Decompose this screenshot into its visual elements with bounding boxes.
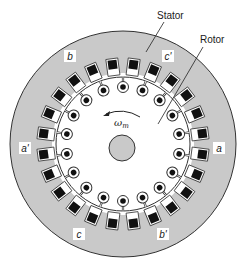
svg-text:c: c xyxy=(77,229,82,240)
phase-label-c: c xyxy=(73,228,85,240)
stator-slot xyxy=(126,58,140,76)
svg-text:b: b xyxy=(67,51,73,62)
svg-text:a': a' xyxy=(21,143,30,154)
stator-slot xyxy=(191,147,209,161)
stator-slot xyxy=(106,212,120,230)
stator-label: Stator xyxy=(157,10,184,21)
phase-label-a: a xyxy=(213,142,225,154)
svg-text:b': b' xyxy=(159,229,168,240)
phase-label-b: b xyxy=(64,50,76,62)
phase-label-c-prime: c' xyxy=(162,50,174,62)
induction-motor-cross-section: bc'a'acb' ωm Stator Rotor xyxy=(0,0,247,264)
svg-text:c': c' xyxy=(165,51,173,62)
rotor-label: Rotor xyxy=(200,34,225,45)
svg-text:a: a xyxy=(216,143,222,154)
shaft-hole xyxy=(109,135,135,161)
stator-slot xyxy=(106,58,120,76)
stator-slot xyxy=(37,127,55,141)
stator-slot xyxy=(191,127,209,141)
phase-label-a-prime: a' xyxy=(19,142,31,154)
shaft xyxy=(109,135,135,161)
stator-slot xyxy=(37,147,55,161)
phase-label-b-prime: b' xyxy=(157,228,169,240)
stator-slot xyxy=(126,212,140,230)
